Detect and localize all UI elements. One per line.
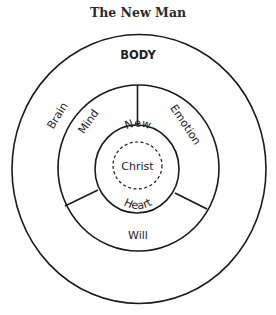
- label-emotion: Emotion: [167, 102, 203, 147]
- label-heart: Heart: [122, 196, 154, 213]
- diagram-title: The New Man: [90, 5, 186, 20]
- label-christ: Christ: [121, 160, 154, 173]
- label-will: Will: [128, 229, 148, 242]
- new-man-diagram: The New Man BODY Brain Mind Emotion Will…: [0, 0, 276, 315]
- divider-mind-will: [65, 190, 98, 206]
- divider-emotion-will: [175, 193, 207, 209]
- label-heart-path: Heart: [122, 196, 154, 213]
- label-brain: Brain: [44, 100, 70, 131]
- label-body: BODY: [120, 48, 156, 62]
- label-new-path: New: [123, 117, 153, 133]
- label-new: New: [123, 117, 153, 133]
